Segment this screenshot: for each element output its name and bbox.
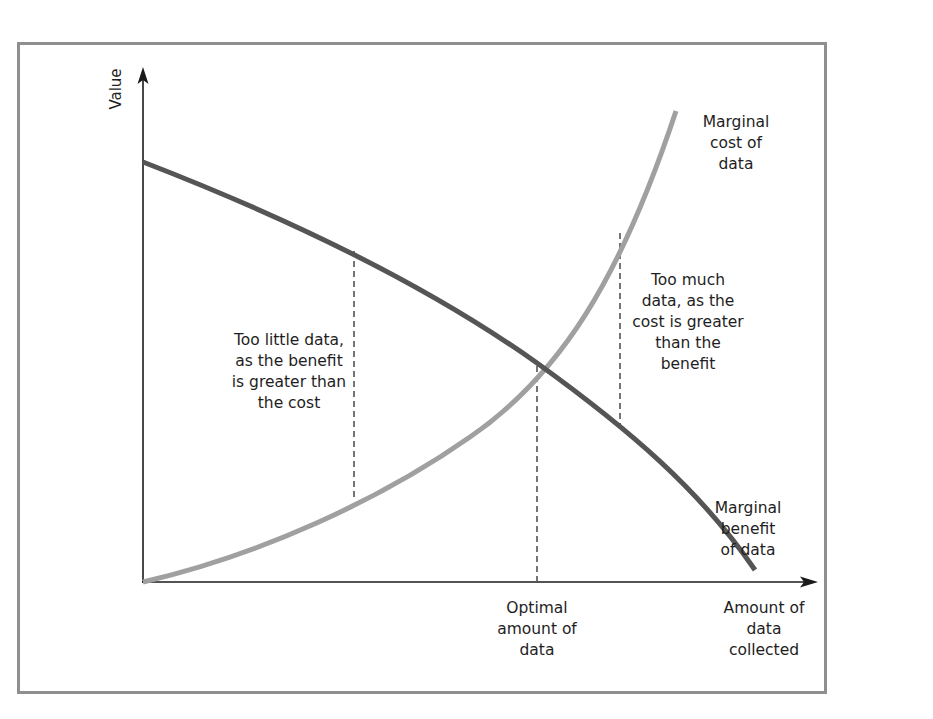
y-axis-label: Value bbox=[107, 67, 129, 111]
marginal-cost-curve bbox=[143, 111, 676, 582]
too-much-data-annotation: Too much data, as the cost is greater th… bbox=[626, 270, 750, 375]
reference-lines bbox=[354, 233, 620, 581]
too-little-data-annotation: Too little data, as the benefit is great… bbox=[230, 330, 348, 414]
benefit-curve-label: Marginal benefit of data bbox=[700, 498, 796, 561]
optimal-amount-label: Optimal amount of data bbox=[485, 598, 589, 661]
cost-curve-label: Marginal cost of data bbox=[688, 112, 784, 175]
y-axis bbox=[138, 67, 149, 583]
x-axis-label: Amount of data collected bbox=[710, 598, 818, 661]
x-axis bbox=[142, 577, 818, 588]
